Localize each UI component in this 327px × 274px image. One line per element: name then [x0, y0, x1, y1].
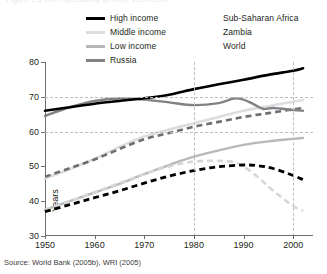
y-axis-tick-label: 60	[29, 127, 39, 136]
series-line	[45, 161, 303, 211]
series-line	[45, 165, 303, 212]
legend-label: Sub-Saharan Africa	[223, 13, 299, 23]
y-axis-tick	[41, 132, 45, 133]
x-axis-tick-label: 1990	[234, 241, 254, 250]
legend-column-right: Sub-Saharan AfricaZambiaWorld	[199, 12, 299, 54]
x-axis-tick	[194, 235, 195, 239]
legend-label: Middle income	[110, 27, 166, 37]
gridline-horizontal	[45, 132, 313, 133]
source-note: Source: World Bank (2005b), WRI (2005)	[4, 258, 141, 267]
x-axis-tick-label: 1980	[184, 241, 204, 250]
x-axis-tick-label: 1970	[134, 241, 154, 250]
y-axis-tick-label: 70	[29, 92, 39, 101]
legend-label: High income	[110, 13, 158, 23]
legend-label: Low income	[110, 41, 156, 51]
x-axis-tick	[95, 235, 96, 239]
y-axis-tick	[41, 201, 45, 202]
figure-life-expectancy: Figure 2.3 Life expectancy at birth, 195…	[0, 0, 327, 274]
legend-entry: World	[199, 40, 299, 52]
x-axis-tick	[45, 235, 46, 239]
gridline-vertical	[194, 62, 195, 236]
series-line	[45, 68, 303, 110]
plot-area: Years 3040506070801950196019701980199020…	[45, 62, 313, 236]
legend-entry: High income	[86, 12, 166, 24]
legend-entry: Sub-Saharan Africa	[199, 12, 299, 24]
figure-title-fragment: Figure 2.3 Life expectancy at birth, 195…	[0, 0, 327, 8]
x-axis-tick	[144, 235, 145, 239]
legend-entry: Low income	[86, 40, 166, 52]
x-axis-tick	[293, 235, 294, 239]
x-axis-tick-label: 2000	[283, 241, 303, 250]
gridline-vertical	[293, 62, 294, 236]
y-axis-tick-label: 80	[29, 58, 39, 67]
legend-label: World	[223, 41, 246, 51]
y-axis-tick	[41, 97, 45, 98]
legend-label: Zambia	[223, 27, 252, 37]
y-axis-tick	[41, 62, 45, 63]
legend-column-left: High incomeMiddle incomeLow incomeRussia	[86, 12, 166, 68]
figure-title-text: Figure 2.3 Life expectancy at birth, 195…	[6, 0, 327, 4]
legend-entry: Middle income	[86, 26, 166, 38]
legend-entry: Zambia	[199, 26, 299, 38]
series-lines	[45, 62, 313, 236]
chart-legend: High incomeMiddle incomeLow incomeRussia…	[86, 12, 316, 60]
x-axis-tick	[244, 235, 245, 239]
x-axis-tick-label: 1950	[35, 241, 55, 250]
y-axis-tick	[41, 166, 45, 167]
y-axis-tick-label: 40	[29, 197, 39, 206]
gridline-horizontal	[45, 97, 313, 98]
y-axis-tick-label: 50	[29, 162, 39, 171]
x-axis-tick-label: 1960	[85, 241, 105, 250]
